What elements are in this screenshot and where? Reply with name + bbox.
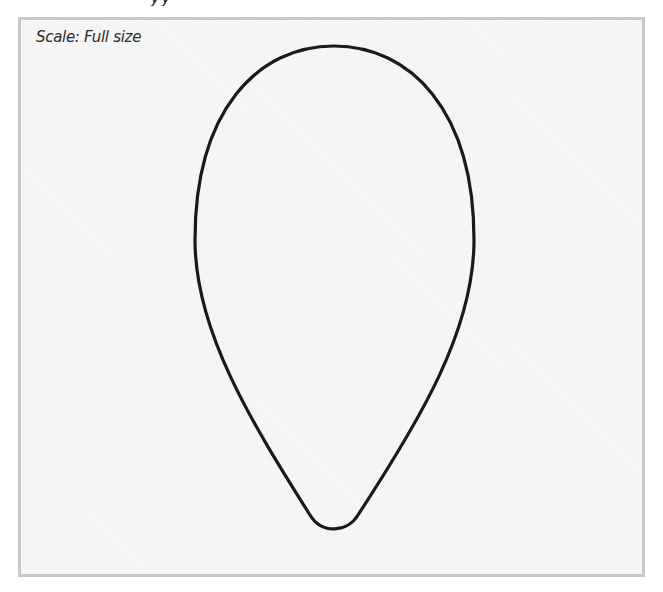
teardrop-outline-shape [0, 0, 663, 592]
